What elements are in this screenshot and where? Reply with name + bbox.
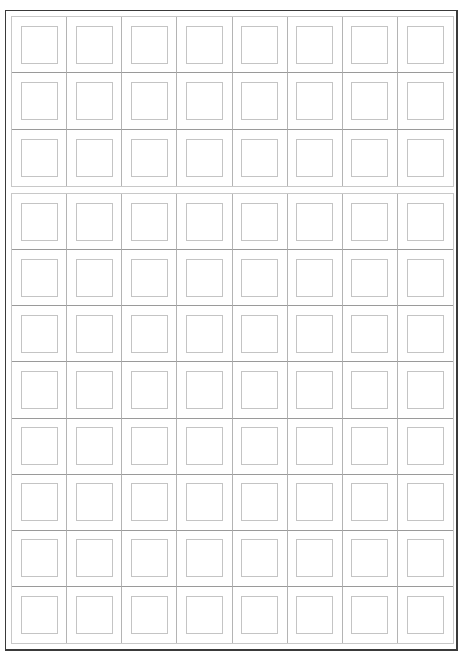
writing-square bbox=[131, 82, 168, 120]
grid-cell bbox=[233, 362, 288, 418]
writing-square bbox=[241, 26, 278, 64]
writing-square bbox=[241, 203, 278, 241]
grid-cell bbox=[288, 130, 343, 186]
grid-cell bbox=[233, 73, 288, 129]
grid-block-top bbox=[11, 16, 454, 187]
grid-cell bbox=[288, 306, 343, 362]
grid-cell bbox=[343, 73, 398, 129]
writing-square bbox=[131, 371, 168, 409]
grid-cell bbox=[122, 306, 177, 362]
writing-square bbox=[351, 596, 388, 634]
grid-cell bbox=[288, 587, 343, 643]
grid-cell bbox=[12, 531, 67, 587]
writing-square bbox=[241, 539, 278, 577]
writing-square bbox=[76, 315, 113, 353]
grid-cell bbox=[343, 362, 398, 418]
grid-cell bbox=[398, 250, 453, 306]
grid-cell bbox=[343, 531, 398, 587]
grid-cell bbox=[398, 531, 453, 587]
writing-square bbox=[76, 427, 113, 465]
grid-cell bbox=[233, 587, 288, 643]
grid-cell bbox=[233, 250, 288, 306]
writing-square bbox=[131, 203, 168, 241]
writing-square bbox=[186, 26, 223, 64]
writing-square bbox=[407, 82, 444, 120]
grid-cell bbox=[12, 250, 67, 306]
writing-square bbox=[296, 539, 333, 577]
writing-square bbox=[21, 82, 58, 120]
writing-square bbox=[21, 371, 58, 409]
grid-cell bbox=[343, 194, 398, 250]
grid-cell bbox=[12, 130, 67, 186]
grid-cell bbox=[67, 475, 122, 531]
grid-cell bbox=[177, 17, 232, 73]
grid-cell bbox=[177, 419, 232, 475]
grid-cell bbox=[177, 531, 232, 587]
grid-cell bbox=[288, 475, 343, 531]
writing-square bbox=[131, 259, 168, 297]
writing-square bbox=[351, 539, 388, 577]
grid-cell bbox=[343, 306, 398, 362]
grid-cell bbox=[12, 17, 67, 73]
grid-cell bbox=[233, 130, 288, 186]
writing-square bbox=[296, 259, 333, 297]
writing-square bbox=[407, 371, 444, 409]
grid-cell bbox=[177, 73, 232, 129]
grid-cell bbox=[12, 73, 67, 129]
grid-cell bbox=[67, 587, 122, 643]
writing-square bbox=[21, 26, 58, 64]
writing-square bbox=[21, 259, 58, 297]
grid-cell bbox=[122, 17, 177, 73]
writing-square bbox=[351, 371, 388, 409]
grid-cell bbox=[122, 130, 177, 186]
grid-cell bbox=[177, 194, 232, 250]
grid-cell bbox=[12, 194, 67, 250]
grid-cell bbox=[122, 362, 177, 418]
grid-cell bbox=[288, 419, 343, 475]
grid-cell bbox=[177, 306, 232, 362]
writing-square bbox=[351, 139, 388, 177]
grid-cell bbox=[67, 362, 122, 418]
writing-square bbox=[296, 315, 333, 353]
writing-square bbox=[296, 139, 333, 177]
writing-square bbox=[296, 82, 333, 120]
grid-cell bbox=[177, 475, 232, 531]
grid-cell bbox=[398, 17, 453, 73]
grid-cell bbox=[343, 419, 398, 475]
writing-square bbox=[186, 139, 223, 177]
grid-cell bbox=[233, 306, 288, 362]
writing-square bbox=[131, 26, 168, 64]
writing-square bbox=[21, 539, 58, 577]
grid-cell bbox=[288, 17, 343, 73]
writing-square bbox=[296, 203, 333, 241]
grid-cell bbox=[67, 130, 122, 186]
grid-cell bbox=[288, 362, 343, 418]
grid-cell bbox=[343, 475, 398, 531]
writing-square bbox=[21, 596, 58, 634]
grid-cell bbox=[122, 250, 177, 306]
writing-square bbox=[131, 539, 168, 577]
grid-cell bbox=[398, 587, 453, 643]
grid-cell bbox=[398, 419, 453, 475]
writing-square bbox=[407, 203, 444, 241]
writing-square bbox=[131, 315, 168, 353]
writing-square bbox=[76, 539, 113, 577]
grid-cell bbox=[343, 17, 398, 73]
grid-cell bbox=[12, 587, 67, 643]
grid-cell bbox=[343, 587, 398, 643]
writing-square bbox=[296, 427, 333, 465]
grid-cell bbox=[67, 306, 122, 362]
writing-square bbox=[296, 596, 333, 634]
grid-cell bbox=[122, 194, 177, 250]
grid-cell bbox=[398, 362, 453, 418]
writing-square bbox=[186, 203, 223, 241]
writing-square bbox=[296, 483, 333, 521]
writing-square bbox=[131, 139, 168, 177]
grid-cell bbox=[177, 362, 232, 418]
writing-square bbox=[131, 596, 168, 634]
writing-square bbox=[241, 139, 278, 177]
grid-cell bbox=[67, 531, 122, 587]
grid-cell bbox=[233, 17, 288, 73]
writing-square bbox=[351, 315, 388, 353]
writing-square bbox=[76, 596, 113, 634]
